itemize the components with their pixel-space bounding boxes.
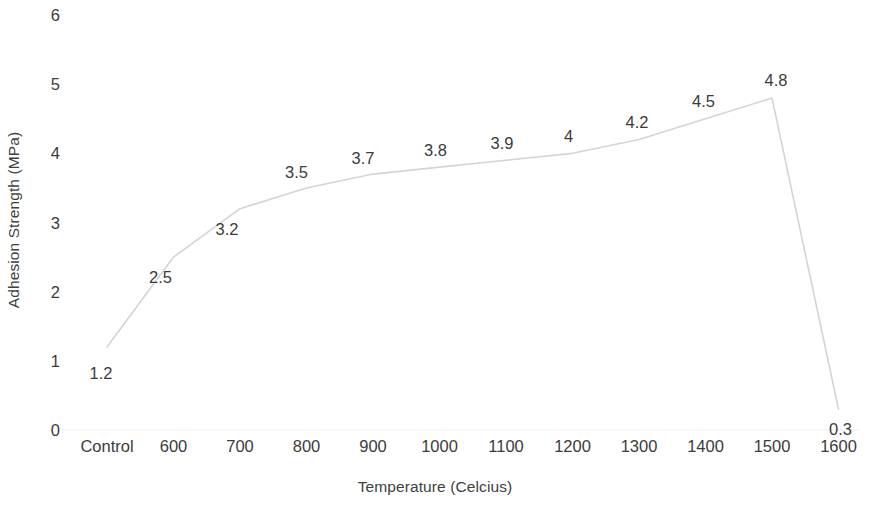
data-point-label: 4.8 [765, 71, 788, 90]
x-axis-tick-label: 800 [293, 437, 321, 456]
x-axis-tick-label: 1300 [621, 437, 658, 456]
data-point-label: 2.5 [149, 268, 172, 287]
series-line [107, 98, 839, 409]
data-point-label: 4.5 [692, 91, 715, 110]
data-point-label: 3.7 [352, 149, 375, 168]
data-point-label: 4.2 [626, 112, 649, 131]
x-axis-tick-labels: Control600700800900100011001200130014001… [0, 437, 870, 463]
x-axis-tick-label: 1400 [687, 437, 724, 456]
x-axis-tick-label: 1100 [488, 437, 523, 456]
x-axis-tick-label: Control [80, 437, 133, 456]
x-axis-tick-label: 700 [226, 437, 254, 456]
x-axis-tick-label: 900 [359, 437, 387, 456]
data-point-label: 3.5 [285, 162, 308, 181]
x-axis-tick-label: 1500 [754, 437, 791, 456]
data-point-label: 1.2 [90, 364, 113, 383]
data-point-label: 3.8 [424, 141, 447, 160]
plot-area [0, 0, 870, 506]
adhesion-strength-line-chart: Adhesion Strength (MPa) 0123456 1.22.53.… [0, 0, 870, 506]
x-axis-title: Temperature (Celcius) [0, 478, 870, 496]
x-axis-tick-label: 600 [160, 437, 188, 456]
data-point-label: 3.9 [491, 134, 514, 153]
plot-svg [0, 0, 870, 506]
data-point-label: 3.2 [216, 219, 239, 238]
x-axis-tick-label: 1000 [421, 437, 458, 456]
x-axis-tick-label: 1600 [820, 437, 857, 456]
data-point-label: 4 [564, 127, 573, 146]
data-point-label: 0.3 [829, 420, 852, 439]
x-axis-tick-label: 1200 [554, 437, 591, 456]
